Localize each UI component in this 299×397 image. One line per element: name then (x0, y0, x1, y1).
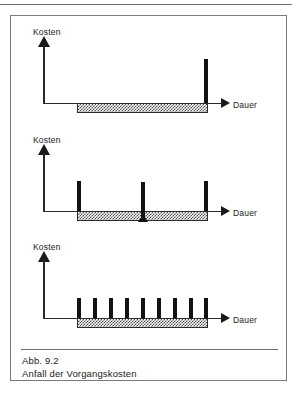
chart-3-x-axis-label: Dauer (233, 315, 257, 325)
chart-3-cost-bar (109, 298, 113, 318)
figure-box: Kosten Dauer Kosten Dauer Kosten (10, 15, 287, 381)
chart-3-cost-bar (173, 298, 177, 318)
chart-3-cost-bar (204, 298, 208, 318)
chart-2-y-axis (43, 153, 45, 211)
chart-3-duration-band (77, 318, 208, 328)
chart-1-y-axis (43, 45, 45, 103)
chart-2-x-axis-label: Dauer (233, 208, 257, 218)
caption-title: Anfall der Vorgangskosten (22, 368, 272, 381)
chart-panel-3: Kosten Dauer (11, 236, 288, 336)
chart-3-y-axis (43, 260, 45, 318)
chart-2-x-axis-arrow-icon (221, 206, 230, 216)
chart-3-x-axis-arrow-icon (221, 313, 230, 323)
chart-3-cost-bar (93, 298, 97, 318)
chart-3-cost-bar (125, 298, 129, 318)
page-top-rule (0, 4, 292, 5)
chart-1-cost-bar (204, 59, 208, 103)
chart-1-x-axis-arrow-icon (221, 98, 230, 108)
chart-3-cost-bar (77, 298, 81, 318)
chart-2-cost-bar (204, 181, 208, 211)
figure-caption: Abb. 9.2 Anfall der Vorgangskosten (22, 355, 272, 380)
chart-3-cost-bar (141, 298, 145, 318)
chart-3-cost-bar (189, 298, 193, 318)
chart-1-x-axis-label: Dauer (233, 100, 257, 110)
caption-label: Abb. 9.2 (22, 355, 272, 368)
chart-1-duration-band (77, 103, 208, 113)
chart-2-cost-bar (77, 181, 81, 211)
caption-divider (21, 349, 278, 350)
chart-2-milestone-marker-icon (138, 214, 148, 222)
chart-panel-2: Kosten Dauer (11, 129, 288, 229)
chart-panel-1: Kosten Dauer (11, 21, 288, 121)
figure-page: Kosten Dauer Kosten Dauer Kosten (0, 0, 299, 397)
chart-3-cost-bar (157, 298, 161, 318)
